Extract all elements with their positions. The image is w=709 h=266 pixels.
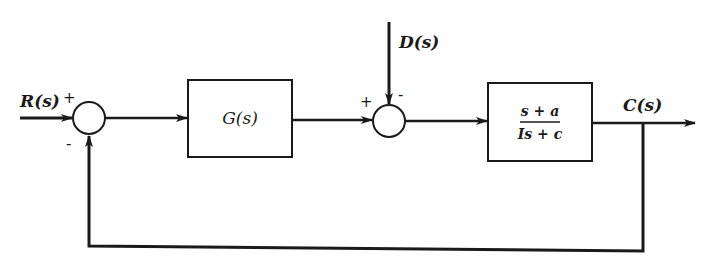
sum2-minus-sign: - <box>398 86 403 104</box>
disturbance-label: D(s) <box>398 32 439 52</box>
summing-junction-2: + - <box>360 86 405 137</box>
input-label: R(s) <box>19 91 60 111</box>
controller-label: G(s) <box>222 108 258 128</box>
controller-block: G(s) <box>188 80 292 157</box>
sum1-plus-sign: + <box>63 89 76 107</box>
block-diagram: R(s) + - G(s) D(s) + - s + a Is + c C(s) <box>0 0 709 266</box>
sum1-minus-sign: - <box>66 135 71 153</box>
plant-denominator: Is + c <box>517 126 563 142</box>
plant-numerator: s + a <box>521 103 559 119</box>
summing-junction-1: + - <box>63 89 105 153</box>
output-signal: C(s) <box>592 95 695 123</box>
sum2-plus-sign: + <box>360 93 373 111</box>
disturbance-signal: D(s) <box>389 22 439 104</box>
plant-block: s + a Is + c <box>488 83 592 161</box>
output-label: C(s) <box>623 95 662 115</box>
